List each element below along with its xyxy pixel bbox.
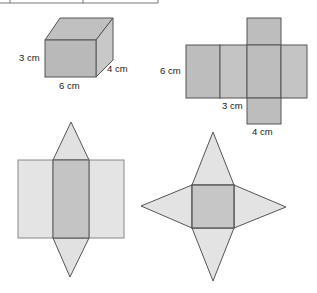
pyramid-left-triangle <box>141 185 192 228</box>
prism-net <box>18 122 124 277</box>
pyramid-top-triangle <box>192 132 234 185</box>
prism-bottom-triangle <box>53 238 89 277</box>
net-middle-label: 3 cm <box>222 100 243 111</box>
table-fragment <box>0 0 158 3</box>
nets-diagram: 3 cm 4 cm 6 cm 6 cm 3 cm 4 cm <box>0 0 317 293</box>
net-top-flap <box>247 18 281 45</box>
pyramid-right-triangle <box>234 185 286 228</box>
pyramid-base <box>192 185 234 228</box>
net-face-1 <box>186 45 220 98</box>
cuboid-width-label: 6 cm <box>59 80 80 91</box>
pyramid-bottom-triangle <box>192 228 234 281</box>
net-bottom-flap <box>247 98 281 124</box>
prism-middle-face <box>53 160 89 238</box>
prism-left-face <box>18 160 53 238</box>
prism-top-triangle <box>53 122 89 160</box>
cuboid-depth-label: 4 cm <box>107 63 128 74</box>
net-face-4 <box>281 45 307 98</box>
cuboid-front-face <box>45 40 96 77</box>
pyramid-net <box>141 132 286 281</box>
net-bottom-label: 4 cm <box>252 126 273 137</box>
net-face-2 <box>220 45 247 98</box>
cuboid-net <box>186 18 307 124</box>
prism-right-face <box>89 160 124 238</box>
net-height-label: 6 cm <box>160 65 181 76</box>
cuboid-height-label: 3 cm <box>19 52 40 63</box>
net-face-3 <box>247 45 281 98</box>
cuboid <box>45 18 113 77</box>
